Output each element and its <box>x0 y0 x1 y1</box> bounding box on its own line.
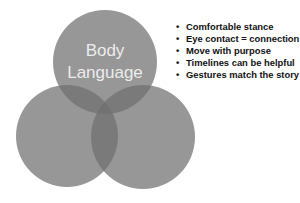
bullet-list: •Comfortable stance •Eye contact = conne… <box>175 21 299 81</box>
bullet-marker: • <box>176 21 179 33</box>
bullet-item: •Comfortable stance <box>175 21 299 33</box>
bullet-item: •Gestures match the story <box>175 69 299 81</box>
bullet-marker: • <box>176 57 179 69</box>
venn-label-line-2: Language <box>67 63 143 82</box>
bullet-marker: • <box>176 45 179 57</box>
bullet-item: •Eye contact = connection <box>175 33 299 45</box>
bullet-item: •Timelines can be helpful <box>175 57 299 69</box>
bullet-item: •Move with purpose <box>175 45 299 57</box>
bullet-marker: • <box>176 69 179 81</box>
venn-circle-top <box>53 10 157 114</box>
venn-label-line-1: Body <box>86 41 125 60</box>
venn-circles <box>16 10 195 189</box>
bullet-marker: • <box>176 33 179 45</box>
